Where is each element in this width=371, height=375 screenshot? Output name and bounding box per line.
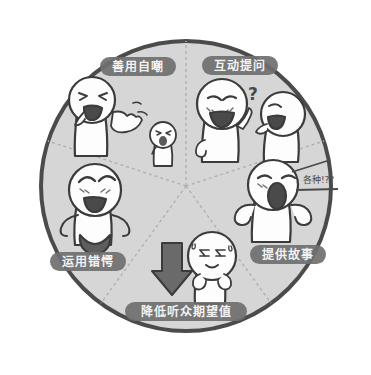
figure-small-listener [150, 122, 176, 166]
segment-label-text: 善用自嘲 [112, 59, 164, 74]
figure-replying [256, 92, 305, 162]
question-mark-annotation: ? [248, 84, 258, 104]
segment-label-top-right[interactable]: 互动提问 [202, 56, 278, 75]
segment-label-text: 提供故事 [262, 247, 314, 262]
segment-label-left[interactable]: 运用错愕 [50, 252, 126, 271]
segment-label-text: 运用错愕 [62, 254, 114, 269]
segment-label-text: 互动提问 [214, 58, 266, 73]
segment-label-text: 降低听众期望值 [141, 304, 232, 319]
segment-label-bottom[interactable]: 降低听众期望值 [125, 302, 247, 321]
speech-scribble-text: 各种!?? [303, 174, 334, 185]
segment-label-right[interactable]: 提供故事 [250, 245, 326, 264]
diagram-canvas: ? 各种!?? [0, 0, 371, 375]
wheel-diagram: ? 各种!?? [0, 0, 371, 375]
segment-label-top-left[interactable]: 善用自嘲 [100, 57, 176, 76]
